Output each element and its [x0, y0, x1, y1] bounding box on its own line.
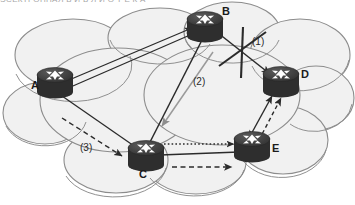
network-cloud [3, 2, 354, 197]
diagram-canvas [0, 0, 355, 205]
node-label-C: C [139, 168, 147, 180]
node-label-E: E [272, 142, 280, 154]
node-label-B: B [222, 5, 230, 17]
node-label-A: A [31, 79, 39, 91]
node-label-D: D [301, 68, 309, 80]
annotation-3: (3) [80, 142, 92, 153]
network-topology-figure: ЭСЕКТРОННАЯ Б И Б Л И О Т Е К А [0, 0, 355, 205]
router-A[interactable] [37, 68, 73, 99]
annotation-1: (1) [252, 36, 264, 47]
annotation-2: (2) [193, 76, 205, 87]
router-B[interactable] [187, 12, 223, 43]
router-C[interactable] [128, 141, 164, 172]
router-E[interactable] [234, 132, 270, 163]
router-D[interactable] [263, 67, 299, 98]
